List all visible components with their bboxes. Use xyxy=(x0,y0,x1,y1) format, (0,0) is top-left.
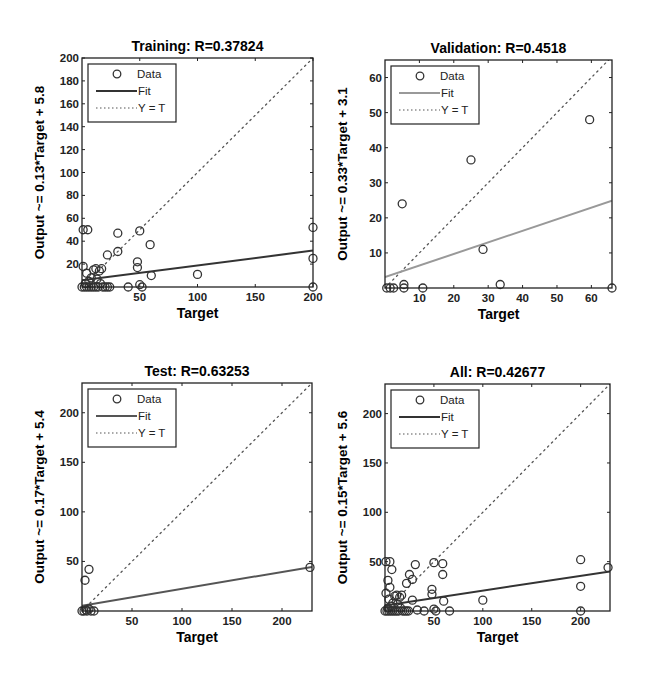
y-tick-label: 60 xyxy=(369,72,382,84)
training-plot: Training: R=0.37824501001502002040608010… xyxy=(32,38,323,321)
legend-data-label: Data xyxy=(137,393,162,405)
y-tick-label: 50 xyxy=(66,555,79,567)
legend: DataFitY = T xyxy=(391,66,479,124)
x-tick-label: 30 xyxy=(482,292,495,304)
y-tick-label: 30 xyxy=(369,177,382,189)
legend-fit-label: Fit xyxy=(138,410,152,422)
y-tick-label: 100 xyxy=(363,506,382,518)
x-axis-label: Target xyxy=(177,305,219,321)
y-tick-label: 180 xyxy=(60,75,79,87)
y-axis-label: Output ~= 0.13*Target + 5.8 xyxy=(32,85,47,259)
y-axis-label: Output ~= 0.15*Target + 5.6 xyxy=(335,410,350,584)
regression-figure: Training: R=0.37824501001502002040608010… xyxy=(0,0,646,679)
y-tick-label: 160 xyxy=(60,98,79,110)
y-axis-label: Output ~= 0.17*Target + 5.4 xyxy=(32,410,47,584)
x-tick-label: 50 xyxy=(428,615,441,627)
x-tick-label: 20 xyxy=(447,292,460,304)
legend: DataFitY = T xyxy=(88,389,176,447)
plot-title: Validation: R=0.4518 xyxy=(431,40,567,56)
y-tick-label: 100 xyxy=(60,167,79,179)
plot-title: Training: R=0.37824 xyxy=(132,38,264,54)
x-tick-label: 10 xyxy=(413,292,426,304)
plot-title: All: R=0.42677 xyxy=(450,364,546,380)
y-tick-label: 120 xyxy=(60,144,79,156)
y-tick-label: 20 xyxy=(66,258,79,270)
x-tick-label: 200 xyxy=(571,615,590,627)
x-tick-label: 150 xyxy=(522,615,541,627)
x-tick-label: 150 xyxy=(246,291,265,303)
y-axis-label: Output ~= 0.33*Target + 3.1 xyxy=(335,87,350,261)
y-tick-label: 10 xyxy=(369,247,382,259)
y-tick-label: 50 xyxy=(369,556,382,568)
validation-plot: Validation: R=0.451810203040506010203040… xyxy=(335,40,616,322)
y-tick-label: 20 xyxy=(369,212,382,224)
x-tick-label: 100 xyxy=(172,615,191,627)
x-tick-label: 200 xyxy=(272,615,291,627)
y-tick-label: 140 xyxy=(60,121,79,133)
x-tick-label: 100 xyxy=(188,291,207,303)
x-tick-label: 100 xyxy=(473,615,492,627)
legend: DataFitY = T xyxy=(88,64,176,122)
y-tick-label: 40 xyxy=(66,235,79,247)
y-tick-label: 200 xyxy=(60,52,79,64)
x-tick-label: 50 xyxy=(126,615,139,627)
x-tick-label: 150 xyxy=(222,615,241,627)
legend-data-label: Data xyxy=(137,68,162,80)
x-tick-label: 200 xyxy=(303,291,322,303)
x-tick-label: 50 xyxy=(551,292,564,304)
legend-identity-label: Y = T xyxy=(441,428,468,440)
legend-data-label: Data xyxy=(440,394,465,406)
y-tick-label: 80 xyxy=(66,189,79,201)
y-tick-label: 60 xyxy=(66,212,79,224)
y-tick-label: 40 xyxy=(369,142,382,154)
y-tick-label: 150 xyxy=(60,456,79,468)
legend-fit-label: Fit xyxy=(441,411,455,423)
legend-identity-label: Y = T xyxy=(138,427,165,439)
x-axis-label: Target xyxy=(176,629,218,645)
y-tick-label: 50 xyxy=(369,107,382,119)
test-plot: Test: R=0.632535010015020050100150200Tar… xyxy=(32,363,314,645)
legend-fit-label: Fit xyxy=(138,85,152,97)
y-tick-label: 200 xyxy=(363,408,382,420)
legend-data-label: Data xyxy=(440,70,465,82)
legend: DataFitY = T xyxy=(391,390,479,448)
x-tick-label: 60 xyxy=(585,292,598,304)
x-axis-label: Target xyxy=(477,629,519,645)
plot-title: Test: R=0.63253 xyxy=(144,363,249,379)
y-tick-label: 200 xyxy=(60,407,79,419)
x-tick-label: 50 xyxy=(133,291,146,303)
y-tick-label: 150 xyxy=(363,457,382,469)
x-axis-label: Target xyxy=(478,306,520,322)
y-tick-label: 100 xyxy=(60,506,79,518)
x-tick-label: 40 xyxy=(516,292,529,304)
legend-identity-label: Y = T xyxy=(441,104,468,116)
legend-identity-label: Y = T xyxy=(138,102,165,114)
legend-fit-label: Fit xyxy=(441,87,455,99)
all-plot: All: R=0.426775010015020050100150200Targ… xyxy=(335,364,612,645)
